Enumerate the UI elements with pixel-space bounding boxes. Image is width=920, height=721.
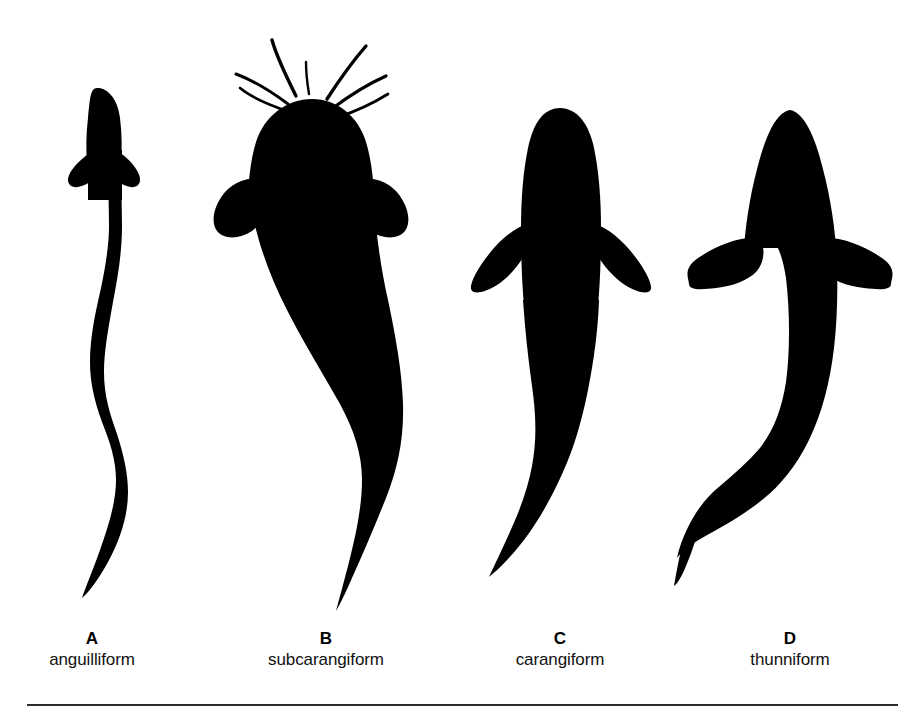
caption-name-a: anguilliform [0, 649, 222, 671]
caption-name-d: thunniform [660, 649, 920, 671]
thunniform-head-path [744, 110, 836, 248]
caption-a: A anguilliform [0, 628, 222, 671]
caption-d: D thunniform [660, 628, 920, 671]
barbel-2 [236, 74, 288, 104]
fish-silhouette-b-subcarangiform [214, 40, 409, 611]
caption-b: B subcarangiform [196, 628, 456, 671]
thunniform-pectoral-fin-left [687, 238, 763, 289]
caption-letter-a: A [0, 628, 222, 649]
fish-silhouette-c-carangiform [471, 108, 651, 577]
carangiform-body-tail-path [489, 300, 599, 577]
carangiform-head-path [521, 108, 601, 306]
fish-silhouette-a-anguilliform [68, 88, 140, 598]
barbel-1 [272, 40, 296, 96]
eel-shoulder-path [88, 150, 122, 200]
caption-letter-b: B [196, 628, 456, 649]
thunniform-body-tail-path [677, 242, 837, 558]
caption-letter-c: C [430, 628, 690, 649]
caption-letter-d: D [660, 628, 920, 649]
caption-c: C carangiform [430, 628, 690, 671]
fish-body-forms-figure: A anguilliform B subcarangiform C carang… [0, 0, 920, 721]
caption-name-c: carangiform [430, 649, 690, 671]
caption-name-b: subcarangiform [196, 649, 456, 671]
fish-silhouettes-canvas [0, 0, 920, 721]
bottom-horizontal-rule [27, 704, 898, 706]
catfish-body-tail-path [250, 200, 403, 611]
barbel-4 [306, 62, 309, 94]
fish-silhouette-d-thunniform [674, 110, 893, 586]
